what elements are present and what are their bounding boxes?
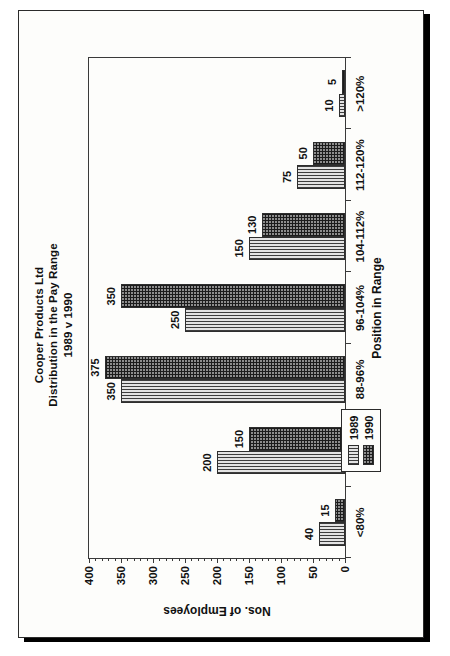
y-axis-tick bbox=[153, 558, 154, 563]
legend-entry-1989: 1989 bbox=[346, 416, 361, 465]
x-axis-tick bbox=[345, 128, 351, 129]
bar-1990-104-112%[interactable] bbox=[262, 213, 345, 237]
y-axis-minor-tick bbox=[191, 558, 192, 561]
y-axis-minor-tick bbox=[236, 558, 237, 561]
x-axis-tick bbox=[345, 343, 351, 344]
y-axis-minor-tick bbox=[95, 558, 96, 561]
bar-value-label: 250 bbox=[169, 311, 181, 329]
y-axis-minor-tick bbox=[275, 558, 276, 561]
y-axis-minor-tick bbox=[262, 558, 263, 561]
bar-1989->120%[interactable] bbox=[339, 94, 345, 118]
bar-1989-104-112%[interactable] bbox=[249, 237, 345, 261]
chart-title-line-1: Cooper Products Ltd bbox=[32, 25, 46, 625]
y-axis-minor-tick bbox=[319, 558, 320, 561]
bar-1989-88-96%[interactable] bbox=[121, 379, 345, 403]
x-axis-tick bbox=[345, 557, 351, 558]
y-axis-minor-tick bbox=[172, 558, 173, 561]
bar-value-label: 75 bbox=[281, 171, 293, 183]
bar-value-label: 200 bbox=[201, 453, 213, 471]
y-axis-minor-tick bbox=[332, 558, 333, 561]
bar-1990-88-96%[interactable] bbox=[105, 356, 345, 380]
bar-1989-96-104%[interactable] bbox=[185, 308, 345, 332]
y-axis-tick-label: 400 bbox=[83, 566, 95, 585]
y-axis-tick-label: 100 bbox=[275, 566, 287, 585]
bar-chart: Cooper Products Ltd Distribution in the … bbox=[26, 25, 418, 625]
rotated-chart-wrapper: Cooper Products Ltd Distribution in the … bbox=[26, 25, 418, 625]
bar-1989-80-88%[interactable] bbox=[217, 451, 345, 475]
y-axis-minor-tick bbox=[115, 558, 116, 561]
y-axis-tick-label: 200 bbox=[211, 566, 223, 585]
y-axis-tick bbox=[249, 558, 250, 563]
bar-value-label: 375 bbox=[89, 358, 101, 376]
bar-value-label: 150 bbox=[233, 239, 245, 257]
x-axis-category-label: >120% bbox=[354, 76, 366, 112]
bar-1990-80-88%[interactable] bbox=[249, 427, 345, 451]
y-axis-minor-tick bbox=[307, 558, 308, 561]
y-axis-minor-tick bbox=[108, 558, 109, 561]
bar-1989-<80%[interactable] bbox=[319, 522, 345, 546]
y-axis-minor-tick bbox=[147, 558, 148, 561]
x-axis-category-label: 112-120% bbox=[354, 139, 366, 191]
x-axis-category-label: <80% bbox=[354, 507, 366, 537]
x-axis-tick bbox=[345, 486, 351, 487]
y-axis-minor-tick bbox=[300, 558, 301, 561]
y-axis-title: Nos. of Employees bbox=[88, 603, 346, 619]
chart-title-line-3: 1989 v 1990 bbox=[61, 25, 75, 625]
y-axis-tick-label: 150 bbox=[243, 566, 255, 585]
bar-value-label: 15 bbox=[319, 504, 331, 516]
x-axis-title: Position in Range bbox=[370, 57, 384, 559]
bar-value-label: 350 bbox=[105, 287, 117, 305]
y-axis-tick-label: 300 bbox=[147, 566, 159, 585]
y-axis-tick bbox=[89, 558, 90, 563]
chart-page: Cooper Products Ltd Distribution in the … bbox=[18, 10, 424, 638]
bar-1990->120%[interactable] bbox=[342, 70, 345, 94]
y-axis-minor-tick bbox=[134, 558, 135, 561]
bar-value-label: 150 bbox=[233, 430, 245, 448]
scanned-page-canvas: Cooper Products Ltd Distribution in the … bbox=[0, 0, 450, 656]
bar-value-label: 5 bbox=[326, 79, 338, 85]
bar-value-label: 10 bbox=[323, 99, 335, 111]
bar-1990-<80%[interactable] bbox=[335, 499, 345, 523]
x-axis-category-label: 88-96% bbox=[354, 360, 366, 400]
bar-1990-96-104%[interactable] bbox=[121, 284, 345, 308]
y-axis-tick bbox=[313, 558, 314, 563]
bar-value-label: 50 bbox=[297, 147, 309, 159]
y-axis-tick bbox=[121, 558, 122, 563]
chart-title-line-2: Distribution in the Pay Range bbox=[46, 25, 60, 625]
x-axis-tick bbox=[345, 271, 351, 272]
bar-1990-112-120%[interactable] bbox=[313, 142, 345, 166]
y-axis-minor-tick bbox=[223, 558, 224, 561]
y-axis-minor-tick bbox=[159, 558, 160, 561]
y-axis-title-label: Nos. of Employees bbox=[163, 604, 270, 618]
y-axis-minor-tick bbox=[230, 558, 231, 561]
y-axis-minor-tick bbox=[127, 558, 128, 561]
y-axis-minor-tick bbox=[102, 558, 103, 561]
bar-value-label: 130 bbox=[246, 216, 258, 234]
bar-value-label: 350 bbox=[105, 382, 117, 400]
bar-value-label: 40 bbox=[303, 528, 315, 540]
y-axis-tick bbox=[345, 558, 346, 563]
bar-1989-112-120%[interactable] bbox=[297, 165, 345, 189]
y-axis-minor-tick bbox=[287, 558, 288, 561]
y-axis-minor-tick bbox=[204, 558, 205, 561]
y-axis-tick bbox=[217, 558, 218, 563]
y-axis-tick-label: 250 bbox=[179, 566, 191, 585]
plot-area: 050100150200250300350400 <80%80-88%88-96… bbox=[88, 57, 346, 559]
x-axis-tick bbox=[345, 57, 351, 58]
y-axis-minor-tick bbox=[294, 558, 295, 561]
y-axis-tick-label: 0 bbox=[339, 566, 351, 572]
y-axis-minor-tick bbox=[140, 558, 141, 561]
y-axis-minor-tick bbox=[166, 558, 167, 561]
x-axis-category-label: 104-112% bbox=[354, 211, 366, 263]
y-axis-tick-label: 350 bbox=[115, 566, 127, 585]
legend-label-1989: 1989 bbox=[348, 416, 360, 440]
y-axis-minor-tick bbox=[179, 558, 180, 561]
y-axis-minor-tick bbox=[255, 558, 256, 561]
y-axis-minor-tick bbox=[198, 558, 199, 561]
legend-swatch-1989 bbox=[348, 445, 359, 465]
x-axis-tick bbox=[345, 200, 351, 201]
y-axis-tick-label: 50 bbox=[307, 566, 319, 579]
y-axis-minor-tick bbox=[268, 558, 269, 561]
y-axis-minor-tick bbox=[211, 558, 212, 561]
chart-title-block: Cooper Products Ltd Distribution in the … bbox=[32, 25, 75, 625]
